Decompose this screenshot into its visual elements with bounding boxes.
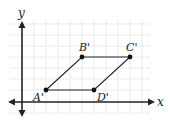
label-d-prime: D' bbox=[96, 91, 109, 104]
point-b-prime bbox=[80, 55, 85, 60]
x-axis-label: x bbox=[157, 95, 164, 109]
label-c-prime: C' bbox=[126, 41, 137, 54]
grid bbox=[10, 20, 150, 113]
point-a-prime bbox=[44, 88, 49, 93]
parallelogram bbox=[46, 57, 130, 90]
vertices bbox=[44, 55, 133, 93]
point-d-prime bbox=[92, 88, 97, 93]
x-axis bbox=[8, 99, 155, 106]
coordinate-plane: x y A' B' C' D' bbox=[0, 0, 172, 124]
y-axis-label: y bbox=[17, 6, 25, 20]
point-c-prime bbox=[128, 55, 133, 60]
label-a-prime: A' bbox=[32, 91, 44, 104]
label-b-prime: B' bbox=[78, 41, 90, 54]
